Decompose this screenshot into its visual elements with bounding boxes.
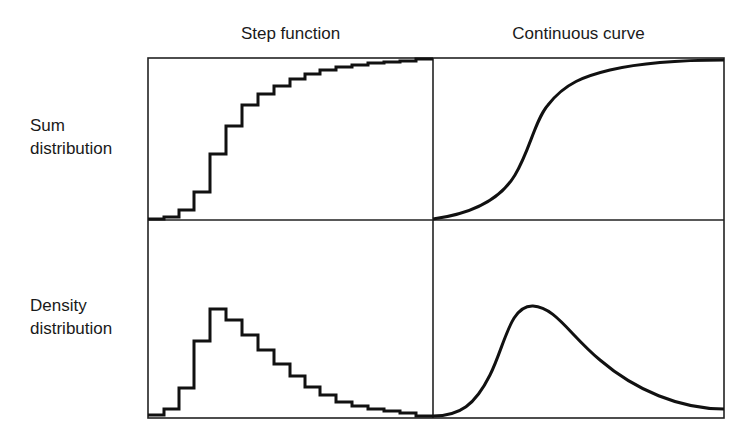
sum-step-curve bbox=[148, 59, 433, 219]
density-continuous-curve bbox=[433, 306, 724, 416]
sum-continuous-curve bbox=[433, 60, 724, 219]
distribution-diagram bbox=[0, 0, 755, 443]
density-step-histogram bbox=[148, 309, 433, 416]
grid-frame bbox=[148, 58, 724, 418]
